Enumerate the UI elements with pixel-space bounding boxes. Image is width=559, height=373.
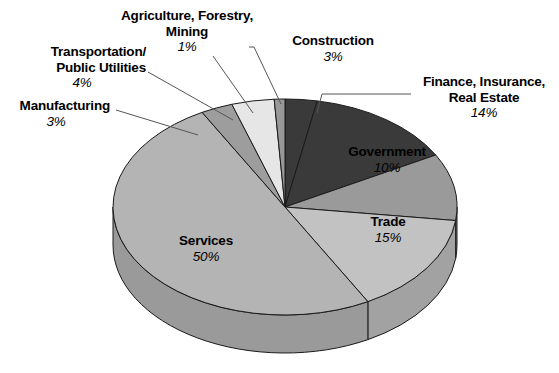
label-government: Government 10% [334,144,440,175]
label-transportation-percent: 4% [18,75,146,91]
label-finance-line1: Finance, Insurance, [423,74,545,89]
label-trade: Trade 15% [352,214,424,245]
label-transportation-line2: Public Utilities [56,60,146,75]
label-services-line1: Services [179,233,233,248]
label-government-percent: 10% [334,160,440,176]
label-manufacturing-line1: Manufacturing [20,98,110,113]
leader-line-construction [249,47,281,104]
label-manufacturing: Manufacturing 3% [2,98,110,129]
label-trade-line1: Trade [370,214,405,229]
label-construction-line1: Construction [292,33,374,48]
label-services: Services 50% [156,233,256,264]
label-finance-percent: 14% [411,105,557,121]
leader-line-transportation [148,72,233,120]
pie-chart-figure: Manufacturing 3% Transportation/ Public … [0,0,559,373]
label-construction-percent: 3% [278,49,388,65]
label-agriculture-line2: Mining [166,24,208,39]
label-finance-line2: Real Estate [449,90,520,105]
label-agriculture-line1: Agriculture, Forestry, [121,8,253,23]
label-government-line1: Government [348,144,426,159]
label-services-percent: 50% [156,249,256,265]
label-finance: Finance, Insurance, Real Estate 14% [411,74,557,121]
label-construction: Construction 3% [278,33,388,64]
label-agriculture: Agriculture, Forestry, Mining 1% [112,8,262,55]
label-agriculture-percent: 1% [112,39,262,55]
label-manufacturing-percent: 3% [2,114,110,130]
label-trade-percent: 15% [352,230,424,246]
pie-slices [113,99,457,315]
